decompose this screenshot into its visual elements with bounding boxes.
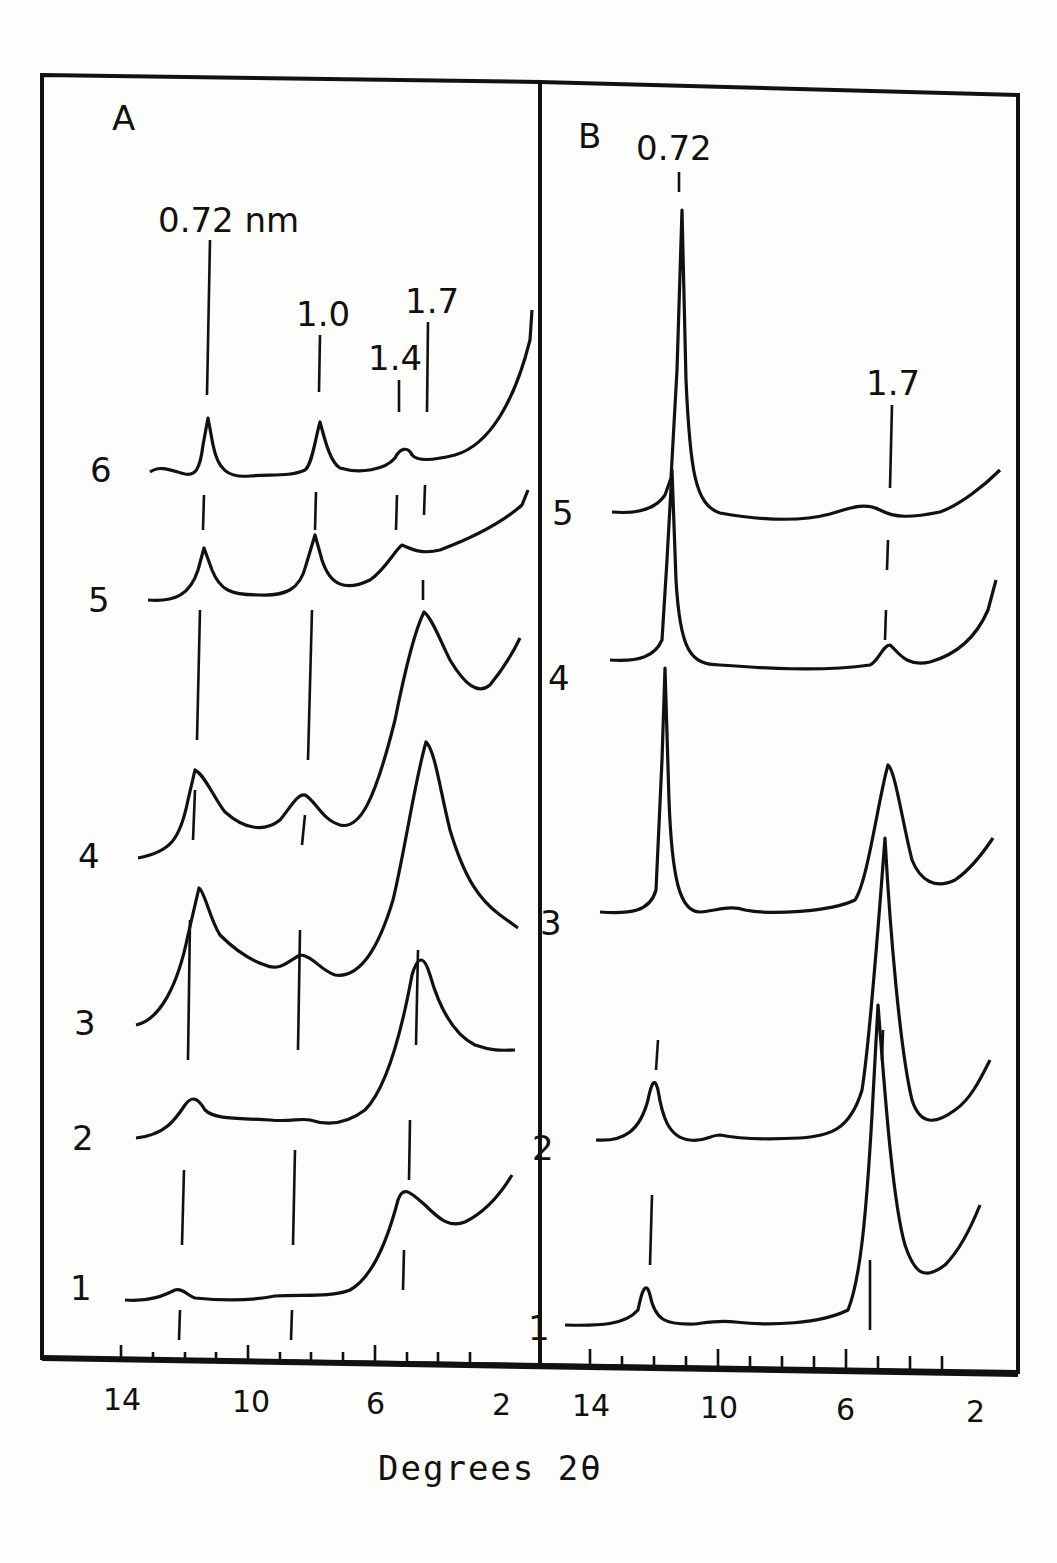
a-trace-4 — [138, 612, 520, 858]
b-series-2: 2 — [532, 1128, 554, 1168]
a-series-5: 5 — [88, 580, 110, 620]
panel-b-label: B — [578, 116, 601, 156]
a-series-1: 1 — [70, 1268, 92, 1308]
x-axis-label: Degrees 2θ — [378, 1448, 603, 1488]
b-series-3: 3 — [540, 903, 562, 943]
a-trace-2 — [136, 960, 515, 1138]
a-series-3: 3 — [74, 1003, 96, 1043]
a-tick-2: 2 — [492, 1387, 511, 1422]
b-series-1: 1 — [528, 1308, 550, 1348]
panel-b-frame — [540, 82, 1018, 1372]
b-peak-label-17: 1.7 — [866, 363, 920, 403]
b-tick-6: 6 — [836, 1392, 855, 1427]
b-tick-2: 2 — [966, 1394, 985, 1429]
panel-a-frame — [42, 75, 540, 1365]
panel-a-label: A — [112, 98, 135, 138]
a-peak-label-14: 1.4 — [368, 338, 422, 378]
panel-b-series-labels: 5 4 3 2 1 — [528, 493, 574, 1348]
b-trace-3 — [600, 668, 993, 913]
a-peak-label-10: 1.0 — [296, 294, 350, 334]
b-trace-5 — [612, 210, 1000, 519]
a-trace-5 — [148, 490, 528, 600]
b-peak-label-072: 0.72 — [636, 128, 712, 168]
a-trace-3 — [136, 742, 518, 1025]
a-tick-6: 6 — [366, 1386, 385, 1421]
b-tick-14: 14 — [572, 1388, 610, 1423]
x-axis — [42, 1358, 1018, 1374]
a-series-6: 6 — [90, 450, 112, 490]
xrd-figure: 14 10 6 2 14 10 6 2 Degrees 2θ A B 0.72 … — [0, 0, 1057, 1563]
panel-a-series-labels: 6 5 4 3 2 1 — [70, 450, 112, 1308]
b-tick-10: 10 — [700, 1390, 738, 1425]
a-tick-14: 14 — [103, 1382, 141, 1417]
a-tick-10: 10 — [232, 1384, 270, 1419]
panel-a-guides — [179, 240, 428, 1340]
a-series-4: 4 — [78, 836, 100, 876]
b-series-5: 5 — [552, 493, 574, 533]
a-peak-label-17: 1.7 — [405, 281, 459, 321]
b-trace-1 — [565, 1005, 980, 1325]
b-series-4: 4 — [548, 658, 570, 698]
a-peak-label-072: 0.72 nm — [158, 200, 299, 240]
b-trace-4 — [610, 470, 996, 669]
panel-a-traces — [125, 310, 532, 1300]
a-series-2: 2 — [72, 1118, 94, 1158]
panel-b-traces — [565, 210, 1000, 1325]
